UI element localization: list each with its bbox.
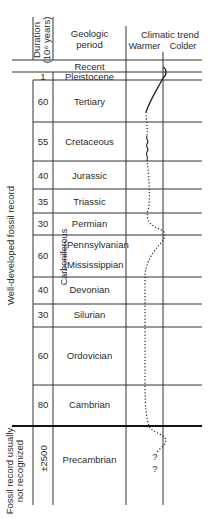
duration-cambrian: 80	[33, 399, 53, 410]
period-cambrian: Cambrian	[53, 399, 126, 410]
period-jurassic: Jurassic	[53, 170, 126, 181]
period-pennsylvanian: Pennsylvanian	[67, 239, 127, 250]
not-recognized-line2: not recognized	[15, 426, 25, 516]
duration-carboniferous: 60	[33, 250, 53, 261]
uncertainty-mark-1: ?	[150, 451, 160, 462]
duration-cretaceous: 55	[33, 136, 53, 147]
period-silurian: Silurian	[53, 309, 126, 320]
colder-label: Colder	[164, 41, 202, 51]
period-ordovician: Ordovician	[53, 350, 126, 361]
duration-devonian: 40	[33, 284, 53, 295]
carboniferous-label: Carboniferous	[59, 221, 69, 293]
period-label-line2: period	[53, 39, 126, 50]
duration-permian: 30	[33, 218, 53, 229]
period-tertiary: Tertiary	[53, 96, 126, 107]
duration-precambrian: ±2500	[38, 434, 49, 484]
period-triassic: Triassic	[53, 196, 126, 207]
well-developed-fossil-record-label: Well-developed fossil record	[5, 176, 16, 316]
fossil-record-not-recognized-label: Fossil record usually not recognized	[5, 426, 25, 516]
period-cretaceous: Cretaceous	[53, 136, 126, 147]
uncertainty-mark-2: ?	[150, 463, 160, 474]
duration-pleistocene: 1	[33, 71, 53, 82]
climate-curve-squiggle	[146, 136, 148, 160]
duration-tertiary: 60	[33, 96, 53, 107]
climatic-trend-header: Climatic trend	[126, 29, 214, 40]
period-precambrian: Precambrian	[53, 454, 126, 465]
duration-jurassic: 40	[33, 170, 53, 181]
duration-ordovician: 60	[33, 350, 53, 361]
period-mississippian: Mississippian	[67, 259, 127, 270]
duration-header: Duration (10⁶ years)	[32, 15, 52, 65]
period-pleistocene: Pleistocene	[53, 71, 126, 82]
duration-triassic: 35	[33, 196, 53, 207]
warmer-label: Warmer	[126, 41, 163, 51]
period-devonian: Devonian	[53, 284, 126, 295]
period-label-line1: Geologic	[53, 28, 126, 39]
duration-silurian: 30	[33, 309, 53, 320]
geologic-period-header: Geologic period	[53, 28, 126, 50]
duration-unit: (10⁶ years)	[42, 15, 52, 65]
